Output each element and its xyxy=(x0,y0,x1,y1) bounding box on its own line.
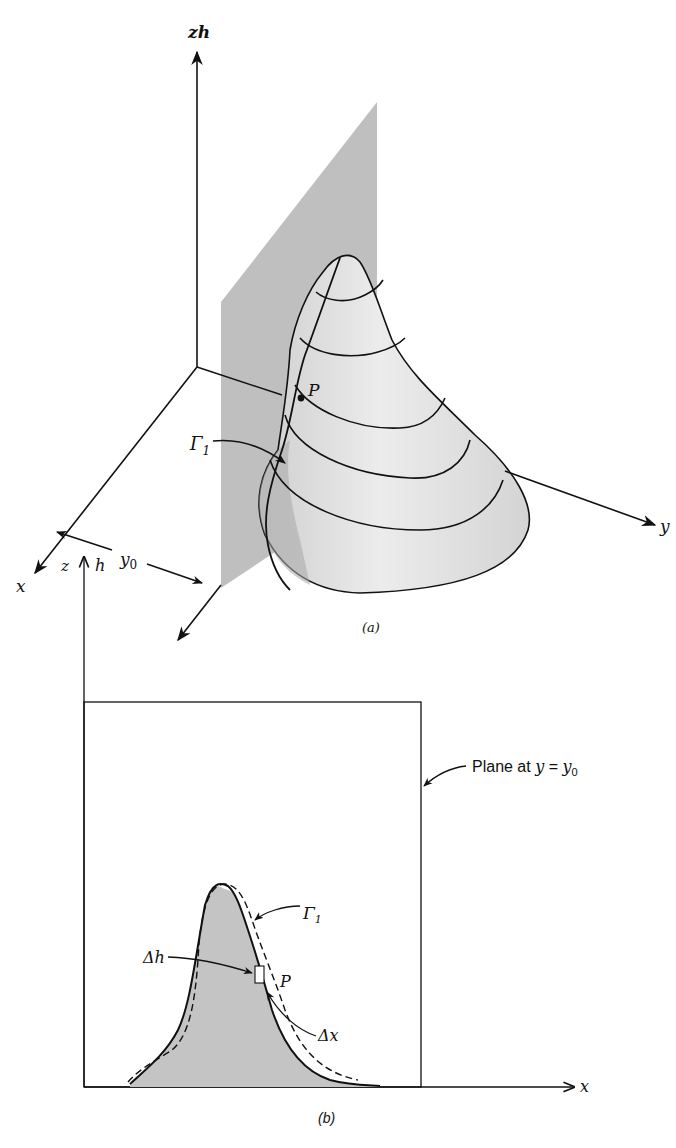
panel-b-caption: (b) xyxy=(318,1110,335,1126)
point-p-label-b: P xyxy=(279,972,291,991)
point-p xyxy=(298,395,305,402)
zh-axis-label: zh xyxy=(187,22,210,42)
panel-a-caption: (a) xyxy=(362,620,380,635)
gamma1-pointer-arrow-b xyxy=(255,906,300,920)
x-axis xyxy=(35,367,197,573)
x-axis-label-b: x xyxy=(580,1077,589,1096)
x-axis-label: x xyxy=(16,576,26,596)
h-axis-label: h xyxy=(95,556,105,575)
z-axis-label: z xyxy=(60,557,69,575)
cross-section-profile xyxy=(130,885,380,1087)
delta-x-label: Δx xyxy=(317,1026,339,1045)
y0-axis-line xyxy=(178,585,221,640)
panel-b: z h x Plane at y = y0 Γ1 Δh P Δx ( xyxy=(60,556,589,1147)
delta-h-label: Δh xyxy=(142,948,165,967)
gamma1-label: Γ1 xyxy=(189,433,210,458)
plane-label: Plane at y = y0 xyxy=(472,757,578,778)
y-axis-label: y xyxy=(659,516,670,536)
y0-dimension-right xyxy=(147,564,202,583)
figure-canvas: zh x P Γ1 y xyxy=(0,0,676,1148)
point-p-label: P xyxy=(307,380,320,400)
plane-pointer-arrow xyxy=(424,766,466,786)
y0-dimension-left xyxy=(57,532,112,550)
delta-rectangle xyxy=(255,966,264,983)
gamma1-label-b: Γ1 xyxy=(302,903,322,926)
y0-label: y0 xyxy=(119,549,137,572)
panel-a: zh x P Γ1 y xyxy=(16,22,670,640)
